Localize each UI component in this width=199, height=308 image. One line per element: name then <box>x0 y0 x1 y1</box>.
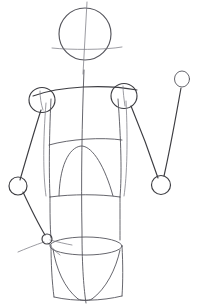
figure-construction-drawing <box>0 0 199 308</box>
sketch-canvas <box>0 0 199 308</box>
